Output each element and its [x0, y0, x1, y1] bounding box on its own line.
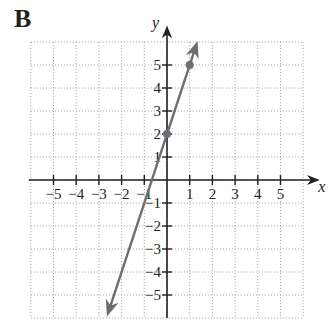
x-tick-label: −2 — [114, 186, 130, 202]
x-tick-label: −3 — [91, 186, 107, 202]
y-tick-label: −1 — [145, 195, 161, 211]
y-tick-label: −2 — [145, 218, 161, 234]
y-tick-label: 5 — [154, 57, 162, 73]
data-point — [186, 61, 194, 69]
y-tick-label: 3 — [154, 103, 162, 119]
y-axis-label: y — [150, 14, 160, 32]
y-tick-label: −3 — [145, 241, 161, 257]
x-tick-label: 2 — [209, 186, 217, 202]
x-tick-label: −5 — [46, 186, 62, 202]
x-tick-label: 3 — [231, 186, 239, 202]
x-axis-label: x — [317, 178, 325, 195]
x-tick-label: −4 — [68, 186, 84, 202]
data-point — [163, 130, 171, 138]
y-tick-label: −5 — [145, 287, 161, 303]
y-tick-label: 4 — [154, 80, 162, 96]
y-tick-label: 2 — [154, 126, 162, 142]
y-tick-label: −4 — [145, 264, 161, 280]
x-tick-label: 4 — [254, 186, 262, 202]
x-tick-label: 5 — [277, 186, 285, 202]
x-tick-label: 1 — [186, 186, 194, 202]
coordinate-plane: xy −5−4−3−2−112345−5−4−3−2−112345 — [0, 0, 332, 321]
